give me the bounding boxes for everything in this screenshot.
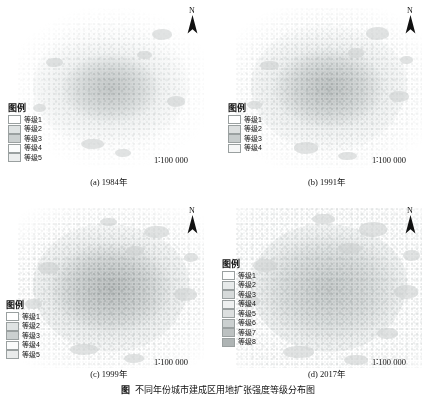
outlying-patch <box>400 56 413 64</box>
legend-title: 图例 <box>6 300 40 311</box>
legend-label: 等级5 <box>24 154 42 162</box>
map-raster-d <box>236 208 422 368</box>
north-arrow-icon <box>405 215 416 234</box>
legend-swatch <box>6 312 19 321</box>
legend-label: 等级4 <box>22 341 40 349</box>
panel-b-1991: N 图例 等级1 等级2 等级3 等级4 1∶100 <box>218 0 436 200</box>
outlying-patch <box>294 142 318 153</box>
legend-item: 等级2 <box>228 125 262 134</box>
legend-label: 等级4 <box>238 300 256 308</box>
legend-swatch <box>222 271 235 280</box>
scale-text-b: 1∶100 000 <box>372 155 406 165</box>
legend-title: 图例 <box>228 103 262 114</box>
legend-label: 等级3 <box>24 135 42 143</box>
legend-swatch <box>222 328 235 337</box>
legend-label: 等级5 <box>238 310 256 318</box>
legend-item: 等级5 <box>222 309 256 318</box>
legend-item: 等级3 <box>228 134 262 143</box>
legend-item: 等级5 <box>6 350 40 359</box>
scale-text-d: 1∶100 000 <box>372 357 406 367</box>
outlying-patch <box>38 262 58 273</box>
panel-a-1984: N 图例 等级1 等级2 等级3 等级4 <box>0 0 218 200</box>
north-arrow-c: N <box>183 206 201 234</box>
legend-swatch <box>6 331 19 340</box>
legend-swatch <box>228 115 241 124</box>
map-raster-a <box>18 8 204 168</box>
legend-item: 等级3 <box>6 331 40 340</box>
footprint-speckle-c <box>18 208 204 368</box>
figure-caption: 图 不同年份城市建成区用地扩张强度等级分布图 <box>0 384 436 396</box>
outlying-patch <box>359 222 387 236</box>
outlying-patch <box>70 344 98 355</box>
legend-label: 等级3 <box>244 135 262 143</box>
north-arrow-icon <box>187 215 198 234</box>
legend-label: 等级3 <box>238 291 256 299</box>
north-label: N <box>183 206 201 215</box>
outlying-patch <box>144 226 168 239</box>
north-arrow-a: N <box>183 6 201 34</box>
outlying-patch <box>394 285 418 299</box>
urban-footprint-c <box>18 208 204 368</box>
legend-label: 等级7 <box>238 329 256 337</box>
legend-c: 图例 等级1 等级2 等级3 等级4 等级5 <box>6 300 40 360</box>
legend-label: 等级2 <box>244 125 262 133</box>
legend-swatch <box>8 153 21 162</box>
outlying-patch <box>338 243 360 254</box>
outlying-patch <box>312 214 334 224</box>
legend-swatch <box>8 144 21 153</box>
urban-footprint-b <box>236 8 422 168</box>
outlying-patch <box>126 246 145 256</box>
outlying-patch <box>403 250 420 261</box>
urban-footprint-a <box>18 8 204 168</box>
legend-item: 等级2 <box>8 125 42 134</box>
scale-text-c: 1∶100 000 <box>154 357 188 367</box>
legend-swatch <box>8 134 21 143</box>
legend-label: 等级2 <box>238 281 256 289</box>
north-arrow-icon <box>405 15 416 34</box>
legend-d: 图例 等级1 等级2 等级3 等级4 等级5 <box>222 259 256 347</box>
legend-swatch <box>222 290 235 299</box>
legend-swatch <box>222 319 235 328</box>
figure-caption-label: 图 <box>121 385 130 395</box>
footprint-speckle-b <box>236 8 422 168</box>
outlying-patch <box>46 58 63 68</box>
legend-swatch <box>228 134 241 143</box>
figure-caption-text: 不同年份城市建成区用地扩张强度等级分布图 <box>135 385 315 395</box>
legend-swatch <box>8 125 21 134</box>
outlying-patch <box>338 152 357 160</box>
legend-label: 等级6 <box>238 319 256 327</box>
legend-swatch <box>228 125 241 134</box>
legend-item: 等级8 <box>222 338 256 347</box>
footprint-speckle-a <box>18 8 204 168</box>
legend-swatch <box>6 322 19 331</box>
map-raster-b <box>236 8 422 168</box>
legend-item: 等级1 <box>228 115 262 124</box>
legend-swatch <box>222 309 235 318</box>
legend-item: 等级6 <box>222 319 256 328</box>
legend-swatch <box>222 338 235 347</box>
panel-caption-b: (b) 1991年 <box>218 177 436 188</box>
legend-swatch <box>8 115 21 124</box>
north-label: N <box>183 6 201 15</box>
panel-caption-c: (c) 1999年 <box>0 369 218 380</box>
legend-item: 等级3 <box>222 290 256 299</box>
north-arrow-b: N <box>401 6 419 34</box>
legend-item: 等级4 <box>228 144 262 153</box>
scale-text-a: 1∶100 000 <box>154 155 188 165</box>
north-arrow-d: N <box>401 206 419 234</box>
legend-item: 等级4 <box>6 341 40 350</box>
panel-c-1999: N 图例 等级1 等级2 等级3 等级4 <box>0 200 218 400</box>
legend-label: 等级5 <box>22 351 40 359</box>
legend-label: 等级3 <box>22 332 40 340</box>
outlying-patch <box>81 139 103 149</box>
legend-label: 等级1 <box>244 116 262 124</box>
outlying-patch <box>344 355 368 365</box>
legend-title: 图例 <box>222 259 256 270</box>
outlying-patch <box>100 218 117 226</box>
legend-item: 等级1 <box>222 271 256 280</box>
north-label: N <box>401 6 419 15</box>
legend-label: 等级4 <box>24 144 42 152</box>
legend-item: 等级1 <box>6 312 40 321</box>
legend-swatch <box>222 300 235 309</box>
legend-item: 等级2 <box>222 281 256 290</box>
